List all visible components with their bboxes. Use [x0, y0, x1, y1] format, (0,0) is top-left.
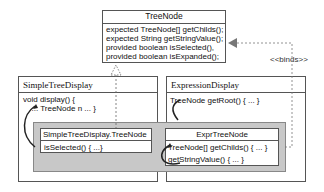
treenode-member: expected TreeNode[] getChilds(); [106, 25, 225, 34]
treenode-members: expected TreeNode[] getChilds(); expecte… [103, 24, 225, 61]
display-method-line-1: void display() { [19, 93, 157, 104]
display-method-line-2: ... TreeNode n ... } [19, 104, 157, 113]
get-root-method: TreeNode getRoot() { ... } [167, 93, 305, 105]
get-string-value-method: getStringValue() { ... } [166, 152, 278, 164]
treenode-template-class: TreeNode expected TreeNode[] getChilds()… [102, 10, 226, 63]
is-selected-method: isSelected() { ...} [41, 141, 151, 152]
expr-treenode-class: ExprTreeNode TreeNode[] getChilds() { ..… [165, 128, 279, 166]
treenode-member: expected String getStringValue(); [106, 34, 225, 43]
simple-tree-display-title: SimpleTreeDisplay [19, 77, 157, 93]
expr-treenode-title: ExprTreeNode [166, 129, 278, 141]
treenode-member: provided boolean isSelected(), [106, 43, 225, 52]
binds-stereotype-label: <<binds>> [270, 55, 308, 64]
treenode-member: provided boolean isExpanded(); [106, 52, 225, 61]
get-childs-method: TreeNode[] getChilds() { ... } [166, 141, 278, 152]
expression-display-title: ExpressionDisplay [167, 77, 305, 93]
simple-treenode-title: SimpleTreeDisplay.TreeNode [41, 129, 151, 141]
simple-tree-display-treenode-class: SimpleTreeDisplay.TreeNode isSelected() … [40, 128, 152, 153]
treenode-title: TreeNode [103, 11, 225, 24]
